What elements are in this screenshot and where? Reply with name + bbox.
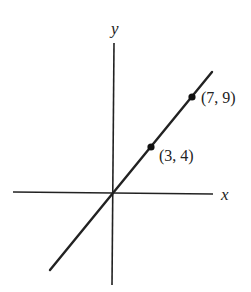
y-axis	[112, 43, 114, 285]
point-label-3-4: (3, 4)	[159, 147, 194, 165]
point-label-7-9: (7, 9)	[201, 89, 236, 107]
x-axis-label: x	[220, 185, 229, 204]
plotted-line	[50, 72, 212, 270]
coordinate-plot: y x (3, 4) (7, 9)	[0, 0, 251, 292]
y-axis-label: y	[109, 19, 119, 38]
point-3-4	[147, 143, 154, 150]
point-7-9	[188, 93, 195, 100]
